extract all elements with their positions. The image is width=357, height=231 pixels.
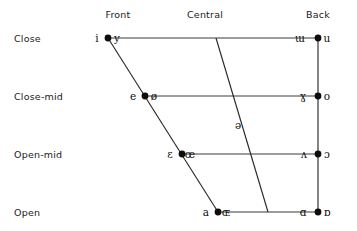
vowel-symbol-close-back-unrounded: ɯ [295, 32, 305, 44]
vowel-chart: iyɯueøɣoɛœʌɔaɶɑɒə FrontCentralBack Close… [0, 0, 357, 231]
vowel-dot-close-mid-front [142, 93, 149, 100]
vowel-symbol-close-back-rounded: u [324, 32, 331, 44]
vowel-symbol-close-mid-front-unrounded: e [130, 90, 136, 102]
row-labels: CloseClose-midOpen-midOpen [14, 33, 63, 218]
vowel-symbol-open-back-unrounded: ɑ [300, 206, 307, 218]
vowel-dot-open-front [215, 209, 222, 216]
vowel-chart-canvas: iyɯueøɣoɛœʌɔaɶɑɒə FrontCentralBack Close… [0, 0, 357, 231]
column-header-central: Central [187, 9, 223, 20]
row-label-open: Open [14, 207, 40, 218]
row-label-close: Close [14, 33, 41, 44]
vowel-symbol-close-front-unrounded: i [95, 32, 99, 44]
vowel-symbol-open-mid-back-unrounded: ʌ [300, 148, 307, 160]
column-header-back: Back [306, 9, 330, 20]
vowel-symbol-open-mid-front-unrounded: ɛ [167, 148, 172, 160]
row-label-close-mid: Close-mid [14, 91, 63, 102]
column-header-front: Front [105, 9, 130, 20]
vowel-symbol-open-front-rounded: ɶ [222, 206, 230, 218]
vowel-symbols: iyɯueøɣoɛœʌɔaɶɑɒə [95, 32, 330, 218]
vowel-symbol-open-mid-back-rounded: ɔ [324, 148, 330, 160]
vowel-dots [105, 35, 322, 216]
vowel-dot-close-mid-back [315, 93, 322, 100]
central-diagonal-line [216, 38, 268, 212]
vowel-symbol-mid-central-schwa: ə [235, 119, 241, 131]
vowel-symbol-close-front-rounded: y [113, 32, 120, 44]
vowel-grid-horizontals [108, 38, 318, 212]
vowel-dot-open-mid-back [315, 151, 322, 158]
vowel-symbol-close-mid-front-rounded: ø [151, 90, 157, 102]
vowel-symbol-close-mid-back-rounded: o [324, 90, 330, 102]
vowel-symbol-open-front-unrounded: a [203, 206, 209, 218]
column-headers: FrontCentralBack [105, 9, 330, 20]
front-diagonal-line [108, 38, 218, 212]
vowel-dot-close-back [315, 35, 322, 42]
vowel-symbol-open-mid-front-rounded: œ [185, 148, 195, 160]
vowel-symbol-close-mid-back-unrounded: ɣ [300, 90, 307, 102]
vowel-dot-open-back [315, 209, 322, 216]
vowel-trapezoid-edges [108, 38, 318, 212]
vowel-symbol-open-back-rounded: ɒ [324, 206, 331, 218]
vowel-dot-close-front [105, 35, 112, 42]
row-label-open-mid: Open-mid [14, 149, 62, 160]
